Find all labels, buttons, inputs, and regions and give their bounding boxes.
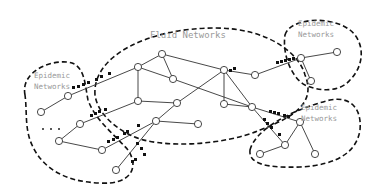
edge-n7-n10 — [156, 103, 177, 121]
node-n16 — [98, 146, 105, 153]
packet-marker — [77, 85, 80, 88]
packet-marker — [134, 158, 137, 161]
packet-marker — [287, 115, 290, 118]
node-n17 — [112, 166, 119, 173]
epidemic-left-label-line2: Networks — [34, 82, 70, 91]
edge-n10-n17 — [116, 121, 156, 170]
packet-marker — [104, 108, 107, 111]
packet-marker — [126, 130, 129, 133]
packet-marker — [72, 86, 75, 89]
edge-n16-n10 — [102, 121, 156, 150]
node-n7 — [173, 99, 180, 106]
edge-n4-n5 — [224, 70, 255, 75]
node-n4 — [220, 66, 227, 73]
packet-marker — [82, 83, 85, 86]
edge-n4-n9 — [224, 70, 252, 107]
edge-n9-n22 — [252, 107, 285, 145]
edge-n21-n23 — [300, 122, 315, 154]
edge-n2-n3 — [138, 67, 173, 79]
edge-n13-n12 — [41, 96, 68, 112]
packet-marker — [137, 124, 140, 127]
edge-n1-n4 — [162, 54, 224, 70]
edges-group — [41, 52, 337, 170]
packet-marker — [233, 67, 236, 70]
packet-marker — [143, 153, 146, 156]
packet-marker — [288, 58, 291, 61]
edge-n21-n22 — [285, 122, 300, 145]
edge-n4-n7 — [177, 70, 224, 103]
epidemic-left-label-line1: Epidemic — [34, 71, 70, 80]
packet-marker — [140, 147, 143, 150]
node-n19 — [333, 48, 340, 55]
node-n14 — [76, 120, 83, 127]
packet-marker — [98, 110, 101, 113]
node-n11 — [194, 120, 201, 127]
packet-marker — [123, 132, 126, 135]
epidemic-top-right-label-line2: Networks — [298, 30, 334, 39]
node-n24 — [256, 150, 263, 157]
packet-marker — [280, 60, 283, 63]
packet-marker — [269, 110, 272, 113]
packet-marker — [100, 75, 103, 78]
network-diagram: Fluid Networks Epidemic Networks Epidemi… — [0, 0, 372, 195]
node-n22 — [281, 141, 288, 148]
node-n18 — [297, 54, 304, 61]
packet-marker — [278, 133, 281, 136]
node-n15 — [55, 137, 62, 144]
node-n5 — [251, 71, 258, 78]
packet-marker — [116, 136, 119, 139]
packet-marker — [229, 69, 232, 72]
node-n1 — [158, 50, 165, 57]
packet-marker — [112, 138, 115, 141]
packet-marker — [283, 114, 286, 117]
node-n8 — [220, 100, 227, 107]
ellipsis-marker — [42, 128, 60, 130]
packet-marker — [94, 112, 97, 115]
node-n2 — [134, 63, 141, 70]
edge-n5-n18 — [255, 58, 301, 75]
packet-marker — [284, 59, 287, 62]
node-n12 — [64, 92, 71, 99]
edge-n15-n14 — [59, 124, 80, 141]
packet-marker — [107, 140, 110, 143]
packet-marker — [90, 114, 93, 117]
packet-marker — [273, 111, 276, 114]
packet-marker — [95, 78, 98, 81]
packet-marker — [87, 81, 90, 84]
edge-n3-n9 — [173, 79, 252, 107]
node-n20 — [307, 77, 314, 84]
node-n3 — [169, 75, 176, 82]
epidemic-top-right-label-line1: Epidemic — [298, 19, 334, 28]
packet-marker — [292, 57, 295, 60]
fluid-networks-label: Fluid Networks — [150, 30, 226, 40]
packet-marker — [276, 61, 279, 64]
packet-marker — [136, 142, 139, 145]
packet-marker — [108, 72, 111, 75]
edge-n10-n11 — [156, 121, 198, 124]
edge-n2-n1 — [138, 54, 162, 67]
packet-marker — [266, 122, 269, 125]
packet-marker — [263, 118, 266, 121]
edge-n15-n16 — [59, 141, 102, 150]
epidemic-bottom-right-label-line2: Networks — [301, 114, 337, 123]
node-n23 — [311, 150, 318, 157]
edge-n18-n19 — [301, 52, 337, 58]
nodes-group — [37, 48, 340, 173]
epidemic-bottom-right-label-line1: Epidemic — [301, 103, 337, 112]
packet-marker — [277, 112, 280, 115]
node-n10 — [152, 117, 159, 124]
packet-marker — [270, 126, 273, 129]
edge-n12-n2 — [68, 67, 138, 96]
packet-marker — [131, 160, 134, 163]
node-n9 — [248, 103, 255, 110]
node-n13 — [37, 108, 44, 115]
node-n6 — [134, 97, 141, 104]
edge-n6-n7 — [138, 101, 177, 103]
edge-n1-n3 — [162, 54, 173, 79]
